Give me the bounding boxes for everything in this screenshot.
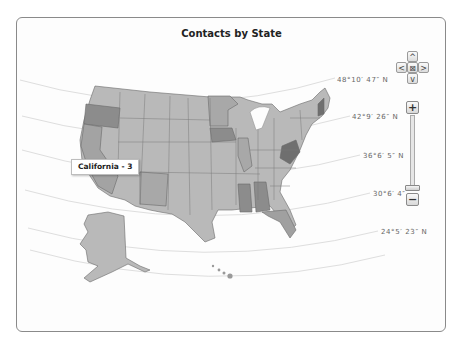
state-tooltip: California - 3 (71, 159, 139, 175)
latitude-label: 42°9′ 26″ N (352, 113, 398, 121)
pan-up-button[interactable]: ^ (407, 51, 418, 62)
us-map[interactable] (0, 0, 463, 351)
latitude-label: 36°6′ 5″ N (363, 152, 404, 160)
pan-left-button[interactable]: < (396, 62, 407, 73)
pan-right-button[interactable]: > (418, 62, 429, 73)
state-new-mexico[interactable] (140, 172, 168, 206)
pan-center-button[interactable]: ⊠ (407, 62, 418, 73)
state-mississippi[interactable] (238, 184, 252, 212)
state-iowa[interactable] (210, 128, 236, 142)
zoom-out-button[interactable]: − (406, 193, 419, 206)
zoom-in-button[interactable]: + (406, 101, 419, 114)
zoom-slider-thumb[interactable] (405, 185, 420, 191)
latitude-label: 48°10′ 47″ N (337, 76, 388, 84)
latitude-label: 24°5′ 23″ N (381, 228, 427, 236)
latitude-label: 30°6′ 4″ (373, 190, 406, 198)
zoom-slider-track[interactable] (410, 115, 415, 188)
state-oregon[interactable] (84, 104, 120, 128)
pan-down-button[interactable]: v (407, 73, 418, 84)
